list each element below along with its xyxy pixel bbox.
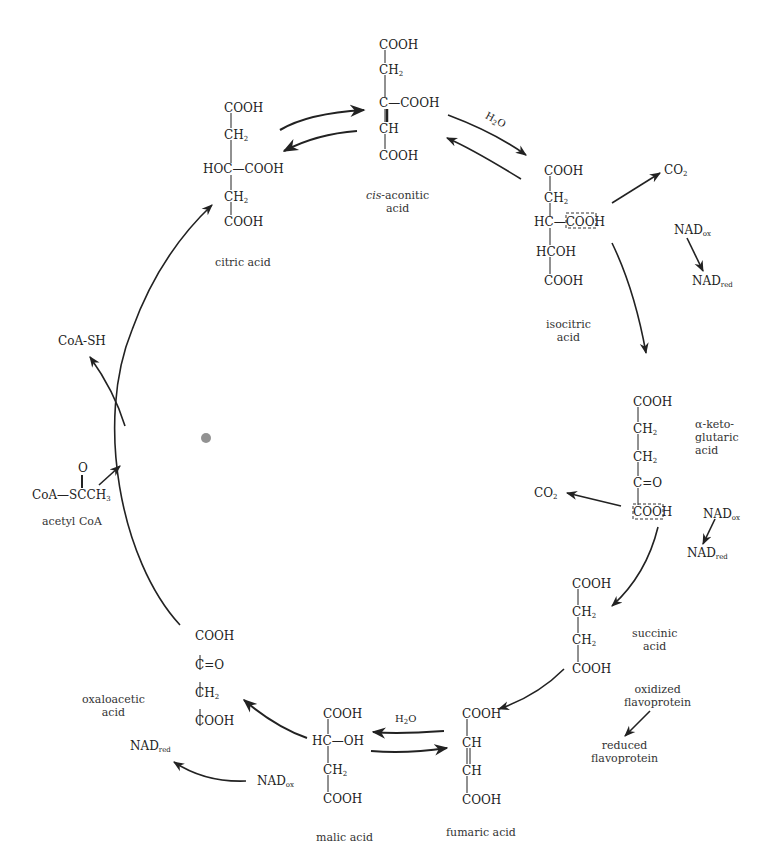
formula-line: C—COOH [379,96,440,110]
formula-line: COOH [379,149,418,163]
compound-label: malic acid [316,831,373,844]
formula-line: CH [379,122,399,136]
nad-red-label-3: NADred [130,739,171,757]
formula-line: COOH [462,793,501,807]
coa-sh-label: CoA-SH [58,334,106,348]
formula-line: CH [462,764,482,778]
formula-line: COOH [323,707,362,721]
formula-line: C=O [195,658,224,672]
arrow-isocitrate-co2 [612,173,660,203]
formula-line: CH2 [224,190,248,208]
scan-artifact-dot [201,433,211,443]
reduced-flavoprotein-label: reduced flavoprotein [591,739,658,765]
arrow-cisaconitate-to-citrate [284,131,357,151]
arrow-fumarate-to-malate [373,731,444,733]
arrow-nad-1 [687,238,703,271]
water-label-bottom: H2O [395,712,416,729]
formula-line: CH2 [572,605,596,623]
compound-label: fumaric acid [446,826,516,839]
nad-ox-label-2: NADox [703,507,740,525]
compound-label: citric acid [215,256,271,269]
formula-line: HC—OH [312,734,364,748]
formula-line: CH2 [195,686,219,704]
co2-label-ketoglutarate: CO2 [534,486,558,504]
formula-line: CH [462,736,482,750]
formula-line: COOH [323,792,362,806]
nad-ox-label-3: NADox [257,774,294,792]
formula-line: CoA—SCCH3 [32,488,111,506]
formula-line: COOH [572,662,611,676]
arrow-akg-to-succinate [612,527,658,606]
formula-line: CH2 [224,128,248,146]
nad-ox-label-1: NADox [674,223,711,241]
formula-line: COOH [462,707,501,721]
compound-label: isocitric acid [546,318,591,344]
arrow-oxaloacetate-to-citrate [115,205,212,625]
arrow-coash-out [90,357,125,426]
compound-label: oxaloacetic acid [82,693,145,719]
formula-line: COOH [195,629,234,643]
compound-label: succinic acid [632,627,677,653]
formula-line: HC—COOH [534,215,605,229]
oxidized-flavoprotein-label: oxidized flavoprotein [624,683,691,709]
formula-line: COOH [195,714,234,728]
arrow-acetylcoa-in [99,466,120,485]
carbonyl-oxygen: O [78,461,88,475]
formula-line: CH2 [544,191,568,209]
arrow-succinate-to-fumarate [499,669,564,709]
formula-line: COOH [544,274,583,288]
arrow-nad-3 [174,762,246,781]
formula-line: CH2 [572,633,596,651]
formula-line: COOH [544,164,583,178]
formula-line: CH2 [379,63,403,81]
formula-line: HCOH [536,245,576,259]
arrow-malate-to-fumarate [371,748,447,752]
formula-line: CH2 [323,763,347,781]
formula-line: CH2 [633,422,657,440]
formula-line: COOH [224,215,263,229]
arrow-malate-to-oxaloacetate [244,700,307,738]
compound-label: acetyl CoA [42,515,102,528]
formula-line: COOH [633,505,672,519]
formula-line: COOH [379,38,418,52]
formula-line: COOH [633,395,672,409]
formula-line: COOH [572,577,611,591]
formula-line: CH2 [633,450,657,468]
arrow-citrate-to-cisaconitate [280,110,364,130]
formula-line: HOC—COOH [203,162,284,176]
formula-line: COOH [224,101,263,115]
formula-line: C=O [633,476,662,490]
nad-red-label-2: NADred [687,546,728,564]
compound-label: α-keto- glutaric acid [695,418,739,457]
arrow-akg-co2 [567,493,621,506]
arrow-flavoprotein [625,711,650,736]
co2-label-isocitrate: CO2 [664,163,688,181]
arrow-isocitrate-to-akg [612,243,646,353]
compound-label: cis-aconitic acid [366,189,429,215]
nad-red-label-1: NADred [692,274,733,292]
